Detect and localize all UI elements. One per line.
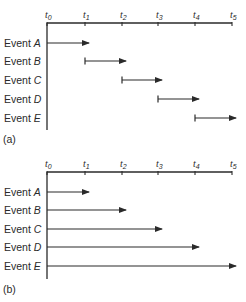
event-label-c: Event C <box>4 223 42 235</box>
tick-label-t3: t3 <box>156 158 163 170</box>
tick-label-t2: t2 <box>120 9 127 21</box>
tick-label-t4: t4 <box>193 158 200 170</box>
tick-label-t4: t4 <box>193 9 200 21</box>
tick-label-t0: t0 <box>45 158 52 170</box>
event-label-d: Event D <box>4 241 42 253</box>
event-label-c: Event C <box>4 74 42 86</box>
event-label-a: Event A <box>4 37 41 49</box>
event-timeline-diagram: t0t1t2t3t4t5Event AEvent BEvent CEvent D… <box>0 0 246 302</box>
tick-label-t2: t2 <box>120 158 127 170</box>
event-label-e: Event E <box>4 112 42 124</box>
tick-label-t5: t5 <box>230 158 237 170</box>
event-label-b: Event B <box>4 204 41 216</box>
tick-label-t0: t0 <box>45 9 52 21</box>
event-label-d: Event D <box>4 93 42 105</box>
panel-label-a: (a) <box>3 133 16 145</box>
event-label-e: Event E <box>4 260 42 272</box>
panel-b: t0t1t2t3t4t5Event AEvent BEvent CEvent D… <box>3 158 237 295</box>
panel-label-b: (b) <box>3 283 16 295</box>
panel-a: t0t1t2t3t4t5Event AEvent BEvent CEvent D… <box>3 9 237 145</box>
tick-label-t1: t1 <box>83 158 90 170</box>
tick-label-t5: t5 <box>230 9 237 21</box>
event-label-a: Event A <box>4 186 41 198</box>
event-label-b: Event B <box>4 55 41 67</box>
tick-label-t1: t1 <box>83 9 90 21</box>
tick-label-t3: t3 <box>156 9 163 21</box>
